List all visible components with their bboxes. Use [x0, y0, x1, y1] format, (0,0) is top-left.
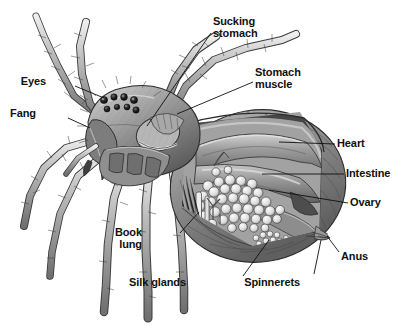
label-fang: Fang	[10, 108, 36, 120]
label-sucking-stomach: Sucking stomach	[213, 16, 258, 39]
label-heart: Heart	[337, 138, 365, 150]
label-layer: Sucking stomachStomach muscleEyesFangHea…	[0, 0, 413, 334]
label-stomach-muscle: Stomach muscle	[255, 67, 301, 90]
label-intestine: Intestine	[346, 168, 390, 180]
label-silk-glands: Silk glands	[129, 277, 186, 289]
label-ovary: Ovary	[350, 197, 381, 209]
label-anus: Anus	[341, 251, 368, 263]
label-spinnerets: Spinnerets	[244, 277, 300, 289]
label-book-lung: Book lung	[115, 227, 142, 250]
label-eyes: Eyes	[21, 76, 46, 88]
spider-anatomy-figure: Sucking stomachStomach muscleEyesFangHea…	[0, 0, 413, 334]
